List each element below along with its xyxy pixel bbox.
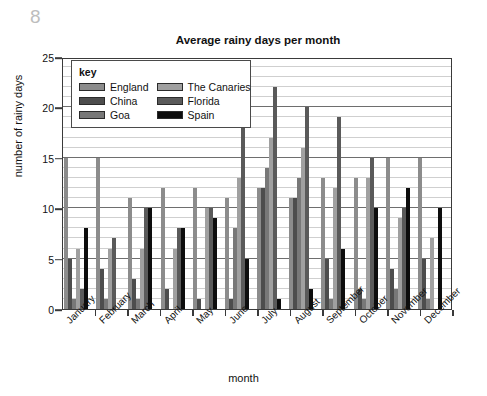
y-tick-label: 0 xyxy=(14,304,54,316)
bar-group xyxy=(386,59,418,309)
legend-label: China xyxy=(110,95,137,107)
x-tick-mark xyxy=(452,310,454,316)
x-tick-mark xyxy=(192,310,194,316)
x-tick-mark xyxy=(127,310,129,316)
bar xyxy=(430,238,434,309)
legend-item: Goa xyxy=(79,109,149,121)
bar xyxy=(148,208,152,309)
legend-swatch xyxy=(79,111,105,119)
x-tick-mark xyxy=(257,310,259,316)
bar xyxy=(193,188,197,309)
bar xyxy=(225,198,229,309)
x-tick-mark xyxy=(160,310,162,316)
bar xyxy=(406,188,410,309)
bar xyxy=(245,259,249,309)
bar xyxy=(197,299,201,309)
bar-group xyxy=(321,59,353,309)
x-axis-label: month xyxy=(0,372,487,384)
legend-entries: EnglandThe CanariesChinaFloridaGoaSpain xyxy=(79,81,243,121)
legend-label: Florida xyxy=(188,95,220,107)
legend-swatch xyxy=(157,111,183,119)
x-tick-mark xyxy=(95,310,97,316)
legend-label: England xyxy=(110,81,149,93)
bar-group xyxy=(257,59,289,309)
chart-figure: 8 Average rainy days per month 051015202… xyxy=(0,0,487,396)
legend-item: The Canaries xyxy=(157,81,251,93)
x-tick-mark xyxy=(290,310,292,316)
bar-group xyxy=(289,59,321,309)
y-axis-label: number of rainy days xyxy=(12,26,24,226)
legend-swatch xyxy=(79,97,105,105)
x-tick-mark xyxy=(225,310,227,316)
legend-label: Goa xyxy=(110,109,130,121)
y-tick-mark xyxy=(55,108,62,110)
legend-label: Spain xyxy=(188,109,215,121)
x-tick-mark xyxy=(420,310,422,316)
bar xyxy=(438,208,442,309)
x-tick-mark xyxy=(355,310,357,316)
chart-legend: key EnglandThe CanariesChinaFloridaGoaSp… xyxy=(71,60,251,128)
y-tick-mark xyxy=(55,259,62,261)
legend-title: key xyxy=(79,66,243,78)
bar xyxy=(213,218,217,309)
y-tick-mark xyxy=(55,158,62,160)
y-tick-label: 5 xyxy=(14,254,54,266)
legend-swatch xyxy=(79,83,105,91)
legend-swatch xyxy=(157,83,183,91)
legend-item: England xyxy=(79,81,149,93)
y-tick-mark xyxy=(55,208,62,210)
bar xyxy=(374,208,378,309)
bar-group xyxy=(418,59,450,309)
bar xyxy=(165,289,169,309)
y-axis: 0510152025 xyxy=(0,0,62,320)
legend-item: Florida xyxy=(157,95,251,107)
x-tick-mark xyxy=(322,310,324,316)
y-tick-mark xyxy=(55,309,62,311)
legend-item: China xyxy=(79,95,149,107)
y-tick-mark xyxy=(55,57,62,59)
legend-label: The Canaries xyxy=(188,81,251,93)
bar xyxy=(273,87,277,309)
legend-swatch xyxy=(157,97,183,105)
x-tick-mark xyxy=(387,310,389,316)
legend-item: Spain xyxy=(157,109,251,121)
bar xyxy=(181,228,185,309)
bar-group xyxy=(354,59,386,309)
bar xyxy=(277,299,281,309)
chart-title: Average rainy days per month xyxy=(118,34,398,46)
bar xyxy=(305,107,309,309)
